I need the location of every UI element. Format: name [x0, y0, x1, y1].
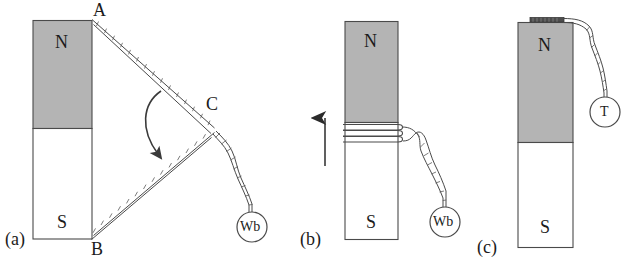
search-coil-sweep-arrow [146, 91, 161, 154]
panel-b-fluxmeter-label: Wb [433, 215, 453, 229]
vertex-label-a: A [93, 1, 106, 19]
panel-a-group [33, 20, 267, 243]
panel-a-south-label: S [57, 213, 67, 231]
panel-b-meter-lead [402, 127, 446, 207]
panel-c-north-label: N [538, 36, 551, 54]
panel-b-south-label: S [366, 213, 376, 231]
panel-a-search-coil [92, 20, 215, 240]
panel-c-teslameter-label: T [600, 105, 609, 119]
panel-a-north-label: N [55, 33, 68, 51]
panel-a-meter-lead [213, 131, 253, 212]
panel-b-group [325, 22, 460, 240]
panel-c-group [518, 18, 620, 248]
panel-c-south-label: S [540, 218, 550, 236]
panel-a-caption: (a) [5, 230, 25, 248]
panel-b-north-label: N [364, 32, 377, 50]
magnetic-measurement-figure: N S A B C Wb (a) N S Wb (b) N S T (c) [0, 0, 643, 271]
panel-c-caption: (c) [477, 238, 497, 256]
vertex-label-c: C [206, 95, 218, 113]
panel-b-caption: (b) [300, 230, 321, 248]
hall-probe [530, 18, 564, 23]
vertex-label-b: B [91, 240, 103, 258]
panel-a-fluxmeter-label: Wb [240, 220, 260, 234]
